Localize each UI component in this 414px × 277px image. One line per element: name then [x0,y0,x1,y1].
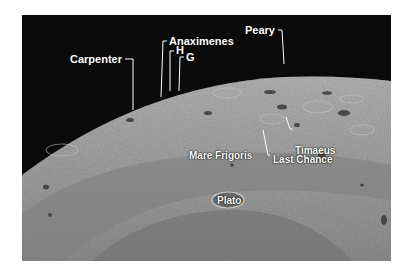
label-carpenter: Carpenter [70,54,122,65]
label-last-chance: Last Chance [273,155,332,165]
moon-photo: Carpenter Anaximenes H G Peary Timaeus L… [22,15,391,261]
label-g: G [186,52,195,63]
label-peary: Peary [245,25,275,36]
lunar-surface-graphic [22,15,391,261]
label-h: H [176,45,184,56]
label-plato: Plato [217,196,241,206]
label-mare-frigoris: Mare Frigoris [189,151,252,161]
